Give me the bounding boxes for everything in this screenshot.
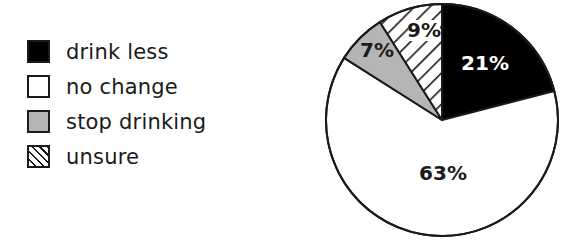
pie-chart: 21%63%7%9% (0, 0, 583, 252)
pie-value-label: 9% (407, 18, 441, 42)
pie-chart-svg: 21%63%7%9% (0, 0, 583, 252)
pie-value-label: 63% (419, 161, 467, 185)
pie-value-label: 21% (461, 51, 509, 75)
pie-value-label: 7% (360, 38, 394, 62)
